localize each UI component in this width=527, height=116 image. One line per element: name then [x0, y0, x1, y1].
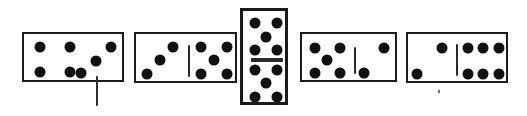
domino-pip: [142, 69, 153, 80]
domino-pip: [322, 55, 333, 66]
domino-pip: [310, 68, 321, 79]
domino-pip: [35, 67, 46, 78]
domino-tile[interactable]: [22, 32, 124, 82]
domino-tile[interactable]: [240, 8, 288, 105]
domino-divider: [96, 76, 98, 106]
domino-tile[interactable]: [406, 32, 508, 83]
domino-pip: [412, 69, 423, 80]
domino-pip: [35, 42, 46, 53]
domino-pip: [335, 68, 346, 79]
domino-pip: [335, 43, 346, 54]
domino-pip: [91, 56, 102, 67]
domino-pip: [379, 43, 390, 54]
domino-pip: [272, 45, 283, 56]
domino-pip: [359, 68, 370, 79]
domino-pip: [168, 42, 179, 53]
domino-tile[interactable]: [300, 32, 397, 82]
domino-divider: [188, 45, 190, 77]
domino-pip: [196, 69, 207, 80]
domino-pip: [261, 32, 272, 43]
domino-divider: [456, 44, 458, 76]
domino-divider: [251, 58, 283, 62]
domino-pip: [209, 55, 220, 66]
domino-pip: [250, 65, 261, 76]
domino-divider: [354, 47, 356, 74]
domino-pip: [250, 92, 261, 103]
domino-pip: [261, 78, 272, 89]
domino-row-scene: [0, 0, 527, 116]
domino-tile[interactable]: [134, 32, 237, 83]
stray-speck-mark: [438, 90, 440, 93]
domino-pip: [494, 43, 505, 54]
domino-pip: [155, 55, 166, 66]
domino-pip: [250, 18, 261, 29]
domino-pip: [478, 69, 489, 80]
domino-pip: [65, 67, 76, 78]
domino-pip: [196, 42, 207, 53]
domino-pip: [437, 43, 448, 54]
domino-pip: [222, 69, 233, 80]
domino-pip: [272, 18, 283, 29]
domino-pip: [65, 42, 76, 53]
domino-pip: [310, 43, 321, 54]
domino-pip: [222, 42, 233, 53]
domino-pip: [272, 65, 283, 76]
domino-pip: [76, 68, 87, 79]
domino-pip: [478, 43, 489, 54]
domino-pip: [250, 45, 261, 56]
domino-pip: [494, 69, 505, 80]
domino-pip: [106, 42, 117, 53]
domino-pip: [463, 69, 474, 80]
domino-pip: [272, 92, 283, 103]
domino-pip: [463, 43, 474, 54]
